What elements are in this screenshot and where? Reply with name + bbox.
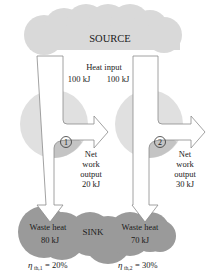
svg-text:Net: Net <box>85 149 98 159</box>
engine-2-waste-heat-label: Waste heat <box>122 222 159 232</box>
svg-text:th,2: th,2 <box>124 265 133 271</box>
svg-text:2: 2 <box>158 138 162 147</box>
svg-text:output: output <box>80 169 102 179</box>
source-label: SOURCE <box>89 33 130 44</box>
svg-text:20 kJ: 20 kJ <box>82 179 101 189</box>
svg-text:th,1: th,1 <box>34 265 43 271</box>
svg-text:Net: Net <box>179 149 192 159</box>
engine-1-efficiency: η th,1 = 20% <box>28 260 68 271</box>
svg-text:η: η <box>28 260 33 270</box>
engine-2-efficiency: η th,2 = 30% <box>118 260 158 271</box>
heat-input-engine-2-value: 100 kJ <box>107 74 130 84</box>
svg-text:work: work <box>176 159 194 169</box>
engine-2-heat-flow-arrow <box>132 56 205 222</box>
heat-engine-comparison-diagram: SOURCE 1 2 He <box>0 0 220 275</box>
engine-2-net-work-label: Net work output 30 kJ <box>174 149 196 189</box>
svg-text:work: work <box>82 159 100 169</box>
engine-1-waste-heat-value: 80 kJ <box>41 235 60 245</box>
sink-label: SINK <box>82 227 104 237</box>
engine-1-net-work-label: Net work output 20 kJ <box>80 149 102 189</box>
source-reservoir: SOURCE <box>24 4 182 55</box>
svg-text:= 20%: = 20% <box>45 260 68 270</box>
svg-text:output: output <box>174 169 196 179</box>
engine-1-waste-heat-label: Waste heat <box>30 222 67 232</box>
engine-2-waste-heat-value: 70 kJ <box>131 235 150 245</box>
svg-text:= 30%: = 30% <box>135 260 158 270</box>
svg-text:30 kJ: 30 kJ <box>176 179 195 189</box>
heat-input-label: Heat input <box>86 62 122 72</box>
svg-text:1: 1 <box>64 138 68 147</box>
svg-text:η: η <box>118 260 123 270</box>
heat-input-engine-1-value: 100 kJ <box>68 74 91 84</box>
